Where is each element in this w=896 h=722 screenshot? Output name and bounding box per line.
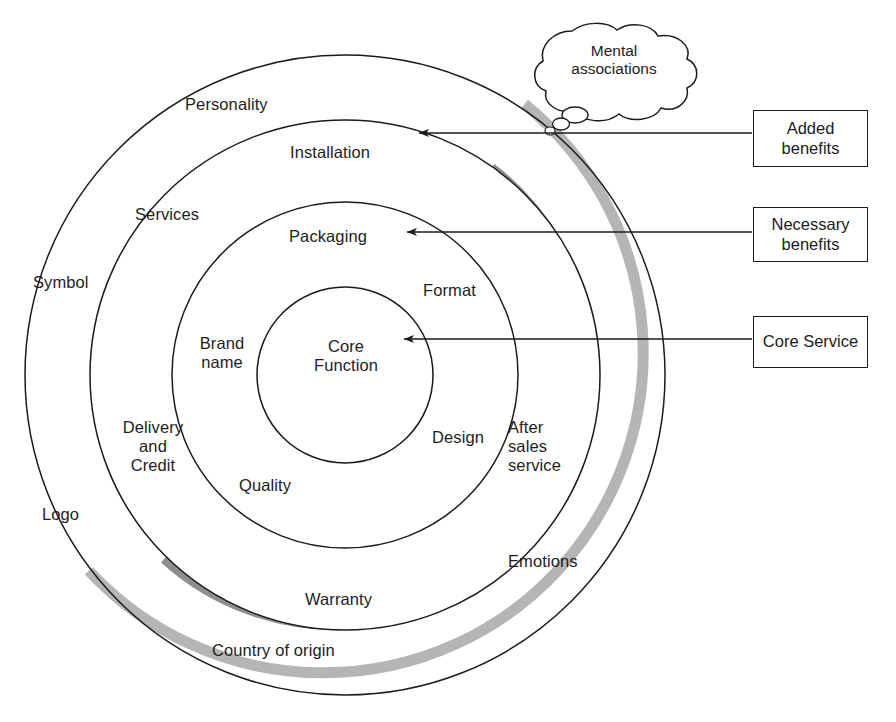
ring-label-personality: Personality [185, 95, 268, 114]
mental-associations-text: Mental associations [538, 42, 690, 78]
diagram-canvas: Personality Symbol Logo Country of origi… [0, 0, 896, 722]
callout-label-necessary-benefits: Necessary benefits [772, 215, 850, 254]
ring-label-delivery-and-credit: Delivery and Credit [112, 418, 194, 474]
ring-label-quality: Quality [239, 476, 291, 495]
callout-box-added-benefits[interactable]: Added benefits [753, 110, 868, 167]
ring-label-installation: Installation [290, 143, 370, 162]
ring-label-country-of-origin: Country of origin [212, 641, 335, 660]
ring-core-circle [257, 287, 433, 463]
callout-box-necessary-benefits[interactable]: Necessary benefits [753, 207, 868, 262]
ring-label-logo: Logo [42, 505, 79, 524]
callout-label-core-service: Core Service [763, 332, 858, 351]
ring-label-format: Format [423, 281, 476, 300]
thought-tail-bubble-3 [545, 127, 555, 135]
core-function-label: Core Function [298, 337, 394, 375]
ring-label-symbol: Symbol [33, 273, 89, 292]
ring-label-warranty: Warranty [305, 590, 372, 609]
ring-label-design: Design [432, 428, 484, 447]
ring-label-packaging: Packaging [289, 227, 367, 246]
ring-label-brand-name: Brand name [186, 334, 258, 372]
callout-label-added-benefits: Added benefits [782, 119, 840, 158]
ring-label-services: Services [135, 205, 199, 224]
ring-label-after-sales-service: After sales service [508, 418, 561, 474]
thought-tail-bubble-2 [553, 118, 570, 130]
callout-box-core-service[interactable]: Core Service [753, 316, 868, 368]
ring-label-emotions: Emotions [508, 552, 578, 571]
thought-bubble [535, 23, 697, 135]
